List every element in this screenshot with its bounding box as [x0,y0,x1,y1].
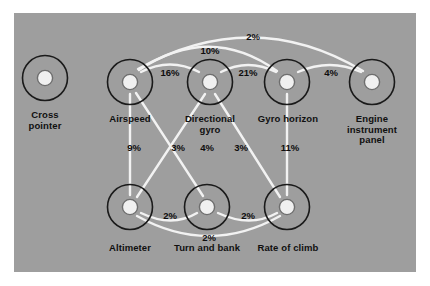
node-label-gyro-horizon: Gyro horizon [243,114,333,125]
node-cross-pointer[interactable] [23,56,68,101]
node-engine-instrument-panel[interactable] [350,60,395,105]
node-label-altimeter: Altimeter [95,243,165,254]
edge-label-airspeed-gyro-horizon: 10% [192,46,228,56]
edge-label-gyro-horizon-rate-of-climb: 11% [272,143,308,153]
edge-label-airspeed-altimeter: 9% [119,143,149,153]
node-label-directional-gyro: Directional gyro [170,114,250,135]
edge-label-gyro-horizon-engine-panel: 4% [316,68,346,78]
edge-label-altimeter-rate-of-climb: 2% [194,233,224,243]
edge-label-turn-and-bank-rate-of-climb: 2% [233,211,263,221]
edge-label-directional-gyro-gyro-horizon: 21% [230,68,266,78]
node-label-airspeed: Airspeed [95,114,165,125]
node-label-turn-and-bank: Turn and bank [162,243,252,254]
edge-label-directional-gyro-rate-of-climb: 3% [226,143,256,153]
edge-label-directional-gyro-altimeter: 3% [163,143,193,153]
edge-label-airspeed-turn-and-bank: 4% [192,143,222,153]
edge-label-altimeter-turn-and-bank: 2% [155,211,185,221]
node-label-cross-pointer: Cross pointer [15,110,75,131]
node-turn-and-bank[interactable] [185,185,230,230]
figure-canvas: Cross pointer Airspeed Directional gyro … [0,0,430,286]
node-directional-gyro[interactable] [188,60,233,105]
node-label-rate-of-climb: Rate of climb [243,243,333,254]
edge-label-airspeed-engine-panel: 2% [238,32,268,42]
node-label-engine-instrument-panel: Engine instrument panel [332,114,412,146]
edge-label-airspeed-directional-gyro: 16% [152,68,188,78]
